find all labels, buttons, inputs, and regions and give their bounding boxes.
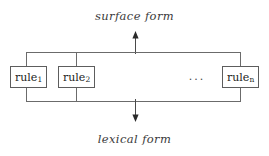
rail-connector-rulen-bottom: [240, 88, 241, 102]
rule-box-n: rulen: [222, 66, 259, 88]
rail-connector-rule2-top: [76, 52, 77, 66]
lexical-form-label: lexical form: [0, 132, 269, 146]
rule-cascade-diagram: surface form rule1 rule2 ... rulen lexic…: [0, 0, 269, 156]
arrow-down-icon: [129, 99, 142, 122]
rule-box-1: rule1: [10, 66, 47, 88]
rule-box-2-base: rule: [63, 72, 85, 83]
rule-box-1-base: rule: [15, 72, 37, 83]
arrow-up-icon: [129, 31, 142, 54]
rule-box-n-base: rule: [227, 72, 249, 83]
rail-connector-rule1-top: [26, 52, 27, 66]
surface-form-label: surface form: [0, 9, 269, 23]
rule-box-2: rule2: [58, 66, 95, 88]
rail-top-horizontal: [26, 52, 240, 53]
rail-connector-rule2-bottom: [76, 88, 77, 102]
rule-box-n-subscript: n: [250, 76, 255, 84]
rail-connector-rulen-top: [240, 52, 241, 66]
rule-box-2-subscript: 2: [86, 76, 91, 84]
rule-box-1-subscript: 1: [38, 76, 43, 84]
rail-connector-rule1-bottom: [26, 88, 27, 102]
rule-ellipsis: ...: [183, 70, 211, 83]
